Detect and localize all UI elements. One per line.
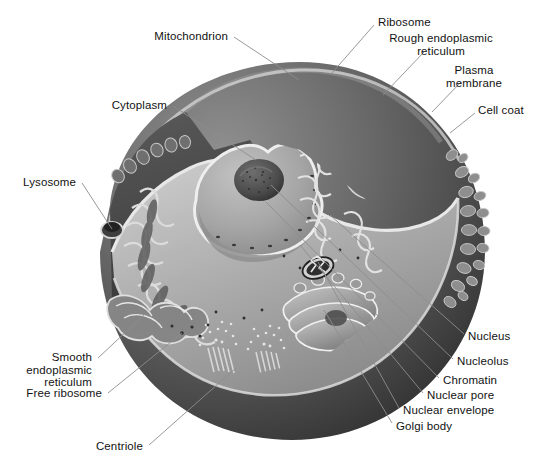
- label-nuclear-envelope: Nuclear envelope: [403, 404, 494, 417]
- label-centriole: Centriole: [96, 440, 143, 453]
- label-nucleolus: Nucleolus: [457, 355, 509, 368]
- leader-ribosome: [332, 25, 374, 73]
- label-nucleus: Nucleus: [468, 330, 510, 343]
- label-ribosome: Ribosome: [378, 16, 431, 29]
- label-smooth-er: Smooth endoplasmic reticulum: [26, 351, 92, 389]
- label-rough-er: Rough endoplasmic reticulum: [371, 32, 511, 57]
- leader-lysosome: [82, 183, 112, 229]
- nucleolus-shape: [234, 159, 284, 201]
- label-mitochondrion: Mitochondrion: [154, 30, 228, 43]
- label-plasma-membrane: Plasma membrane: [404, 64, 544, 89]
- label-free-ribosome: Free ribosome: [26, 387, 102, 400]
- label-cell-coat: Cell coat: [478, 104, 524, 117]
- label-chromatin: Chromatin: [443, 374, 497, 387]
- label-golgi-body: Golgi body: [396, 420, 452, 433]
- leader-cell-coat: [450, 113, 475, 133]
- label-cytoplasm: Cytoplasm: [112, 99, 167, 112]
- label-nuclear-pore: Nuclear pore: [427, 389, 494, 402]
- label-lysosome: Lysosome: [23, 176, 76, 189]
- lysosome-shape: [101, 222, 123, 238]
- cell-diagram-figure: MitochondrionCytoplasmLysosomeSmooth end…: [0, 0, 551, 468]
